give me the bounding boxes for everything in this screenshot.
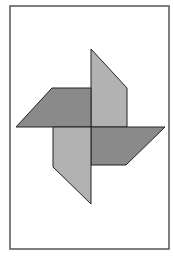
upper-blade [91, 49, 127, 127]
left-blade [16, 88, 91, 127]
pinwheel-figure [0, 0, 173, 260]
lower-blade [53, 127, 91, 204]
pinwheel-shape [16, 49, 165, 204]
right-blade [91, 127, 165, 165]
